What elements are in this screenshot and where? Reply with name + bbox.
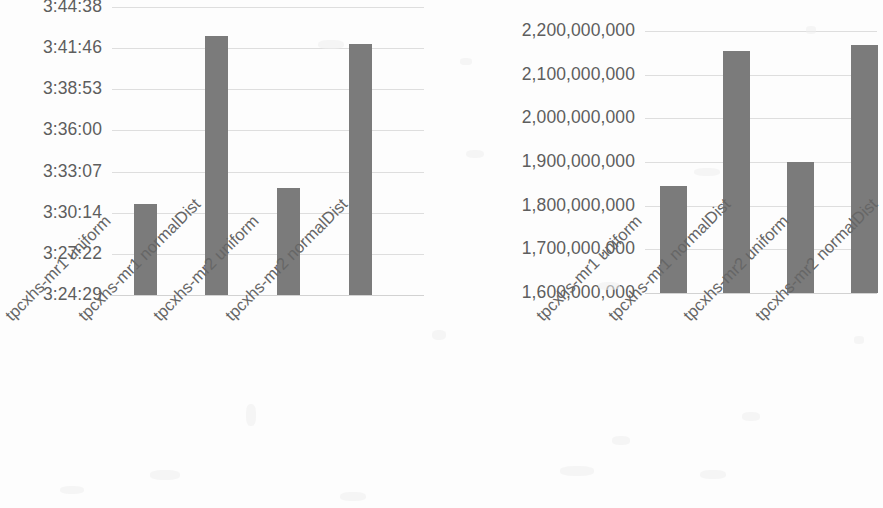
x-axis-category-label: tpcxhs-mr1 normalDist [75, 195, 203, 323]
chart-left-elapsed-time: 3:44:383:41:463:38:533:36:003:33:073:30:… [0, 0, 441, 508]
x-axis-category-labels-right: tpcxhs-mr1 uniformtpcxhs-mr1 normalDistt… [441, 0, 883, 508]
x-axis-category-label: tpcxhs-mr2 normalDist [222, 195, 350, 323]
x-axis-category-labels-left: tpcxhs-mr1 uniformtpcxhs-mr1 normalDistt… [0, 0, 441, 508]
x-axis-category-label: tpcxhs-mr2 normalDist [752, 195, 880, 323]
x-axis-category-label: tpcxhs-mr1 normalDist [605, 195, 733, 323]
chart-right-throughput: 2,200,000,0002,100,000,0002,000,000,0001… [441, 0, 883, 508]
screenshot-page: 3:44:383:41:463:38:533:36:003:33:073:30:… [0, 0, 883, 508]
